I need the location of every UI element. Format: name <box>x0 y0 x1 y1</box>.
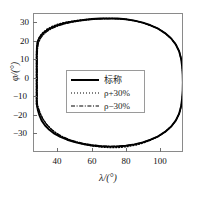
ytick-mark-0 <box>33 78 37 79</box>
ytick-label-m30: −30 <box>5 129 27 138</box>
xtick-mark-80 <box>126 148 127 152</box>
y-axis-label: φ/(°) <box>9 50 20 94</box>
legend-item-rho-plus: ρ+30% <box>70 86 141 99</box>
ytick-mark-30 <box>33 22 37 23</box>
x-axis-label: λ/(°) <box>33 172 183 183</box>
xtick-label-100: 100 <box>147 157 173 166</box>
ytick-label-20: 20 <box>7 37 29 46</box>
figure-container: 30 20 10 0 −10 −20 −30 40 60 80 100 φ/(°… <box>0 0 202 197</box>
xtick-mark-60 <box>92 148 93 152</box>
legend-item-rho-minus: ρ−30% <box>70 99 141 112</box>
legend-line-dashdot <box>70 101 100 111</box>
xtick-label-60: 60 <box>79 157 105 166</box>
ytick-mark-m20 <box>33 115 37 116</box>
xtick-mark-100 <box>160 148 161 152</box>
legend-line-solid <box>70 75 100 85</box>
ytick-mark-20 <box>33 41 37 42</box>
legend-item-nominal: 标称 <box>70 73 141 86</box>
legend-label-nominal: 标称 <box>104 75 122 85</box>
legend-label-rho-minus: ρ−30% <box>104 101 130 111</box>
ytick-mark-10 <box>33 59 37 60</box>
xtick-label-40: 40 <box>44 157 70 166</box>
ytick-mark-m30 <box>33 133 37 134</box>
xtick-mark-40 <box>57 148 58 152</box>
legend-line-dotted <box>70 88 100 98</box>
ytick-label-30: 30 <box>7 18 29 27</box>
xtick-label-80: 80 <box>113 157 139 166</box>
ytick-label-m20: −20 <box>5 111 27 120</box>
legend-box: 标称 ρ+30% ρ−30% <box>66 70 145 113</box>
ytick-mark-m10 <box>33 96 37 97</box>
legend-label-rho-plus: ρ+30% <box>104 88 130 98</box>
